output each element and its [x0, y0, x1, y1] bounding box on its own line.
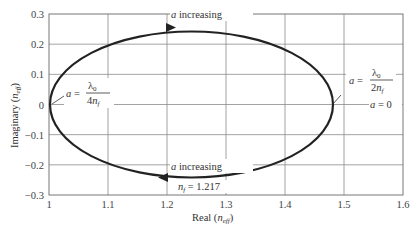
svg-text:a =: a =: [66, 88, 80, 99]
y-tick-label: 0: [39, 100, 44, 111]
annotation-a-increasing-bottom: a increasing: [171, 161, 223, 172]
y-tick-labels: 0.30.20.10−0.1−0.2−0.3: [25, 9, 44, 201]
y-tick-label: −0.1: [25, 130, 44, 141]
annotation-a-lambda-2nf: a = λ0 2nf: [346, 66, 396, 96]
annotation-a-zero: a = 0: [370, 99, 392, 110]
arrow-left-icon: [158, 173, 168, 182]
x-tick-label: 1.5: [337, 199, 350, 210]
annotation-text: increasing: [176, 9, 223, 20]
y-tick-label: −0.3: [25, 190, 44, 201]
pointer-right: [333, 95, 341, 104]
y-tick-label: 0.3: [31, 9, 44, 20]
annotation-a-increasing-top: a increasing: [171, 9, 223, 20]
x-tick-label: 1.3: [219, 199, 232, 210]
arrow-right-icon: [166, 23, 176, 32]
y-tick-label: −0.2: [25, 160, 44, 171]
annotation-a-lambda-4nf: a = λ0 4nf: [64, 78, 114, 108]
svg-text:a =: a =: [349, 75, 363, 86]
x-tick-label: 1.4: [278, 199, 292, 210]
x-tick-labels: 11.11.21.31.41.51.6: [46, 199, 409, 210]
x-axis-title: Real (neff): [192, 212, 234, 225]
x-tick-label: 1.1: [101, 199, 114, 210]
pointer-left: [52, 96, 64, 104]
y-axis-title: Imaginary (neff): [9, 82, 22, 148]
x-tick-label: 1.2: [160, 199, 173, 210]
chart: 11.11.21.31.41.51.6 0.30.20.10−0.1−0.2−0…: [0, 0, 419, 242]
x-tick-label: 1.6: [396, 199, 409, 210]
y-tick-label: 0.2: [31, 39, 44, 50]
y-tick-label: 0.1: [31, 69, 44, 80]
x-tick-label: 1: [46, 199, 51, 210]
